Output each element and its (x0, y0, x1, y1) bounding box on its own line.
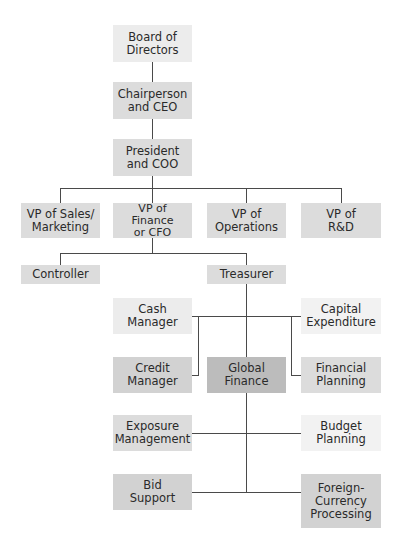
node-vp-rd: VP of R&D (301, 203, 381, 238)
connector-vp-bar (60, 188, 342, 189)
node-cash-manager: Cash Manager (113, 298, 192, 334)
connector-coo-vps (152, 176, 153, 188)
node-bid-support: Bid Support (113, 474, 192, 510)
connector-credit-tick (192, 375, 199, 376)
connector-cash-capex (192, 316, 301, 317)
node-budget-planning: Budget Planning (301, 415, 381, 451)
node-vp-finance-cfo: VP of Finance or CFO (113, 203, 192, 238)
connector-controller (60, 253, 61, 265)
connector-finance-bar (60, 253, 247, 254)
connector-vp-rd (341, 188, 342, 203)
node-president-coo: President and COO (113, 139, 192, 176)
node-financial-planning: Financial Planning (301, 357, 381, 393)
connector-board-ceo (152, 62, 153, 82)
connector-finance-down (152, 238, 153, 253)
connector-finplan-bracket (291, 316, 292, 375)
connector-vp-finance (152, 188, 153, 203)
node-board-of-directors: Board of Directors (113, 25, 192, 62)
node-credit-manager: Credit Manager (113, 357, 192, 393)
connector-ceo-coo (152, 119, 153, 139)
node-treasurer: Treasurer (207, 265, 286, 284)
node-controller: Controller (21, 265, 100, 284)
node-capital-expenditure: Capital Expenditure (301, 298, 381, 334)
connector-bid-fx (192, 492, 301, 493)
connector-vp-ops (246, 188, 247, 203)
node-vp-sales-marketing: VP of Sales/ Marketing (21, 203, 100, 238)
connector-finplan-tick (291, 375, 301, 376)
node-vp-operations: VP of Operations (207, 203, 286, 238)
node-chairperson-ceo: Chairperson and CEO (113, 82, 192, 119)
node-exposure-management: Exposure Management (113, 415, 192, 451)
connector-vp-sales (60, 188, 61, 203)
node-global-finance: Global Finance (207, 357, 286, 393)
connector-exposure-budget (192, 433, 301, 434)
connector-treasurer (246, 253, 247, 265)
node-foreign-currency-processing: Foreign- Currency Processing (301, 474, 381, 528)
connector-credit-bracket (198, 316, 199, 375)
